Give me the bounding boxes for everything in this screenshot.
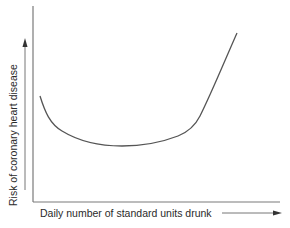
x-axis-label: Daily number of standard units drunk xyxy=(40,207,212,219)
chart: Risk of coronary heart disease Daily num… xyxy=(0,0,290,228)
y-arrow-icon xyxy=(23,38,28,190)
risk-curve xyxy=(40,33,237,146)
y-axis-label: Risk of coronary heart disease xyxy=(7,64,19,206)
x-arrow-icon xyxy=(222,211,282,216)
